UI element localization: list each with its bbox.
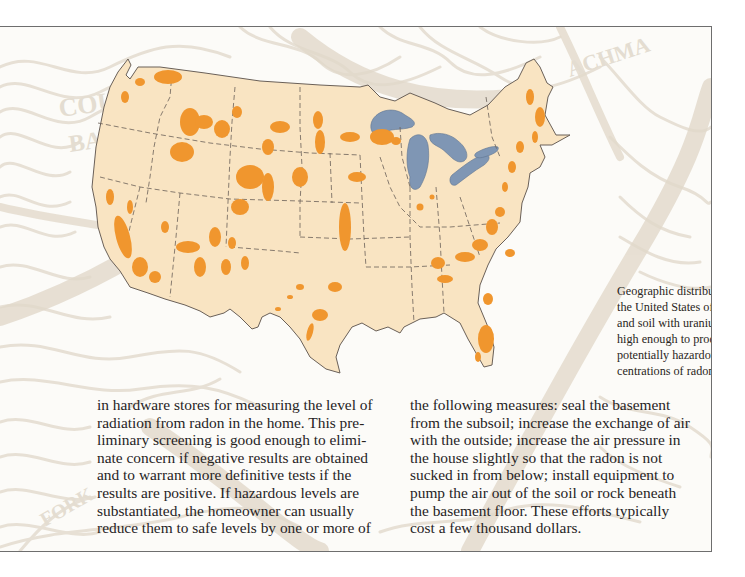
caption-line: the United States of rock [617,300,712,316]
text-line: with the outside; increase the air press… [410,431,692,449]
text-line: radiation from radon in the home. This p… [97,414,379,432]
text-line: pump the air out of the soil or rock ben… [410,484,692,502]
text-line: sucked in from below; install equipment … [410,466,692,484]
caption-line: high enough to produce [617,332,712,348]
text-line: cost a few thousand dollars. [410,519,692,537]
text-line: in hardware stores for measuring the lev… [97,396,379,414]
caption-line: Geographic distribution in [617,284,712,300]
body-column-left: in hardware stores for measuring the lev… [97,396,379,537]
text-line: results are positive. If hazardous level… [97,484,379,502]
text-line: liminary screening is good enough to eli… [97,431,379,449]
body-column-right: the following measures: seal the basemen… [410,396,692,537]
book-page: COU BAY ACHMA FORK [0,26,712,552]
text-line: from the subsoil; increase the exchange … [410,414,692,432]
text-line: the house slightly so that the radon is … [410,449,692,467]
text-line: substantiated, the homeowner can usually [97,502,379,520]
caption-line: and soil with uranium levels [617,316,712,332]
text-line: the basement floor. These efforts typica… [410,502,692,520]
caption-line: centrations of radon. [617,364,712,380]
figure-caption: Geographic distribution in the United St… [617,284,712,379]
caption-line: potentially hazardous con- [617,348,712,364]
text-line: the following measures: seal the basemen… [410,396,692,414]
text-line: and to warrant more definitive tests if … [97,466,379,484]
text-line: reduce them to safe levels by one or mor… [97,519,379,537]
text-line: nate concern if negative results are obt… [97,449,379,467]
